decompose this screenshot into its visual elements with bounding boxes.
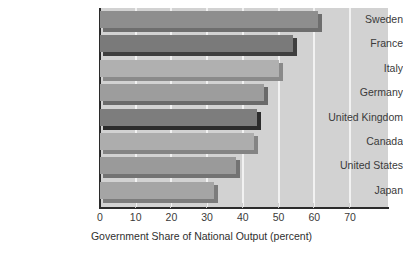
bar-shadow-right [214,185,218,203]
bar-shadow-right [264,87,268,105]
category-label-japan: Japan [309,185,403,196]
x-tick-label-70: 70 [344,211,356,223]
bar-row [100,182,219,206]
x-tick-mark-70 [349,203,350,208]
bar-shadow-right [257,112,261,130]
bar-chart: SwedenFranceItalyGermanyUnited KingdomCa… [0,0,403,253]
bar-row [100,133,259,157]
category-label-france: France [309,38,403,49]
category-label-italy: Italy [309,63,403,74]
x-tick-mark-40 [242,203,243,208]
bar-italy[interactable] [100,60,279,77]
bar-canada[interactable] [100,133,254,150]
bar-shadow-right [254,136,258,154]
x-tick-mark-10 [135,203,136,208]
bar-row [100,109,262,133]
x-axis-line [99,207,389,209]
bar-united-kingdom[interactable] [100,109,257,126]
category-label-germany: Germany [309,87,403,98]
x-tick-label-0: 0 [97,211,103,223]
bar-shadow-bottom [103,77,282,81]
bar-france[interactable] [100,35,293,52]
bar-row [100,60,284,84]
category-label-sweden: Sweden [309,14,403,25]
bar-shadow-right [236,160,240,178]
bar-shadow-bottom [103,52,296,56]
bar-row [100,35,298,59]
bar-shadow-right [293,38,297,56]
bar-sweden[interactable] [100,11,318,28]
bar-shadow-bottom [103,126,260,130]
bar-japan[interactable] [100,182,214,199]
x-tick-mark-20 [170,203,171,208]
category-label-canada: Canada [309,136,403,147]
x-axis-title: Government Share of National Output (per… [0,230,403,242]
bar-shadow-bottom [103,101,267,105]
bar-shadow-right [279,63,283,81]
x-tick-label-40: 40 [237,211,249,223]
x-tick-mark-50 [278,203,279,208]
x-tick-mark-60 [313,203,314,208]
x-tick-mark-30 [206,203,207,208]
x-tick-label-50: 50 [273,211,285,223]
x-tick-label-30: 30 [201,211,213,223]
bar-shadow-bottom [103,150,257,154]
category-label-united-kingdom: United Kingdom [309,112,403,123]
bar-row [100,84,269,108]
x-tick-label-20: 20 [166,211,178,223]
bar-row [100,11,323,35]
bar-united-states[interactable] [100,157,236,174]
bar-shadow-bottom [103,199,217,203]
bar-shadow-bottom [103,174,239,178]
bar-shadow-bottom [103,28,321,32]
x-tick-label-60: 60 [308,211,320,223]
bar-row [100,157,241,181]
x-tick-label-10: 10 [130,211,142,223]
bar-germany[interactable] [100,84,264,101]
category-label-united-states: United States [309,160,403,171]
